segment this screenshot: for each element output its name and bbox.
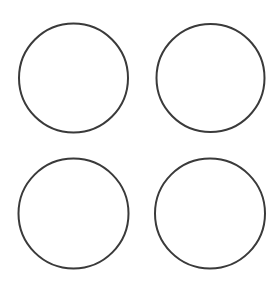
diagram-canvas (0, 0, 279, 284)
circle-bottom-left (19, 159, 129, 269)
four-circles-grid (0, 0, 279, 284)
circle-bottom-right (155, 159, 265, 269)
circle-top-left (19, 24, 128, 133)
circle-top-right (157, 24, 265, 132)
